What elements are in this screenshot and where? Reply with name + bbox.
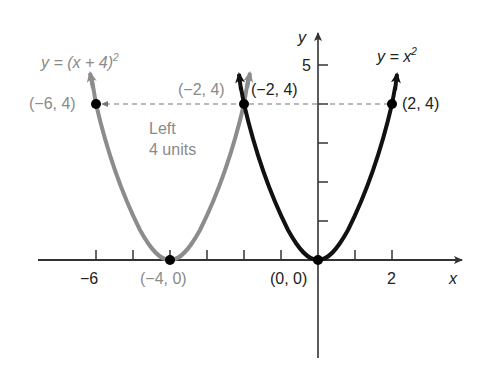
y-ticks: [318, 65, 328, 221]
shift-arrow-icon: [101, 101, 108, 107]
shift-annotation-line2: 4 units: [149, 142, 196, 158]
point-2-4: [387, 99, 397, 109]
curve-shifted-label: y = (x + 4)2: [41, 53, 119, 71]
curve-base-arrow-left: [239, 74, 241, 90]
curve-base-label-text: y = x: [377, 48, 411, 65]
y-axis-label: y: [298, 30, 306, 46]
x-axis-label: x: [449, 271, 457, 287]
x-tick-label-neg6: −6: [80, 271, 98, 287]
curve-base: [241, 88, 318, 260]
y-tick-label-5: 5: [302, 58, 311, 74]
curve-shifted-label-exp: 2: [113, 52, 119, 63]
x-ticks: [96, 250, 392, 260]
point-0-0: [313, 255, 323, 265]
label-point-0-0: (0, 0): [270, 271, 307, 287]
curve-shifted-right: [170, 80, 248, 260]
label-point-neg6-4: (−6, 4): [29, 96, 76, 112]
point-neg2-4: [239, 99, 249, 109]
point-neg6-4: [91, 99, 101, 109]
curve-base-arrow-right: [395, 74, 397, 90]
curve-base-right: [318, 88, 395, 260]
label-point-neg2-4-shifted: (−2, 4): [178, 82, 225, 98]
curve-shifted-arrow-right: [247, 73, 250, 88]
x-tick-label-2: 2: [387, 271, 396, 287]
curve-base-label: y = x2: [377, 47, 417, 65]
point-neg4-0: [165, 255, 175, 265]
label-point-2-4: (2, 4): [402, 96, 439, 112]
curve-shifted-arrow-left: [90, 73, 93, 88]
curve-shifted: [92, 80, 170, 260]
shift-annotation-line1: Left: [149, 121, 176, 137]
label-point-neg2-4-base: (−2, 4): [251, 82, 298, 98]
curve-base-label-exp: 2: [411, 46, 417, 57]
curve-shifted-label-text: y = (x + 4): [41, 54, 113, 71]
label-point-neg4-0: (−4, 0): [140, 271, 187, 287]
